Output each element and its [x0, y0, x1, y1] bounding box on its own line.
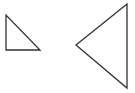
- diagram-canvas: [0, 0, 135, 93]
